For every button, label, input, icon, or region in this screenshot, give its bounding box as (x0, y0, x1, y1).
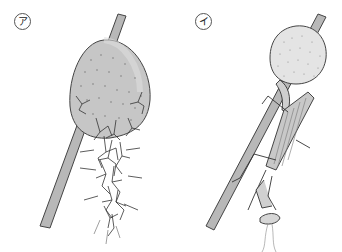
ootheca (270, 26, 326, 84)
nymphs-hatching-illustration (0, 0, 180, 252)
panel-a: ア (0, 0, 180, 252)
adult-mantis-illustration (180, 0, 342, 252)
panel-b: イ (180, 0, 342, 252)
ootheca (70, 40, 150, 138)
